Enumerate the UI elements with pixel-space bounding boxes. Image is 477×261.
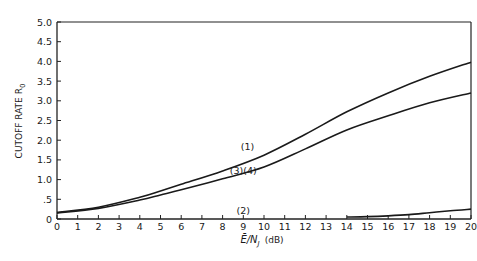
x-tick-label: 10 xyxy=(258,221,270,232)
x-tick-label: 6 xyxy=(178,221,184,232)
x-tick-label: 7 xyxy=(199,221,205,232)
y-tick-label: 1.5 xyxy=(37,154,52,165)
x-tick-label: 3 xyxy=(116,221,122,232)
curve-label: (3)(4) xyxy=(230,165,257,176)
x-tick-label: 12 xyxy=(299,221,311,232)
y-tick-label: 4.5 xyxy=(37,36,52,47)
x-tick-label: 14 xyxy=(341,221,353,232)
curve-label: (1) xyxy=(241,141,254,152)
x-tick-label: 4 xyxy=(137,221,143,232)
curve-1 xyxy=(57,62,471,212)
y-tick-label: 1.0 xyxy=(37,174,52,185)
y-tick-label: 5.0 xyxy=(37,17,52,28)
x-tick-label: 8 xyxy=(220,221,226,232)
plot-frame xyxy=(57,22,471,219)
x-tick-label: 2 xyxy=(95,221,101,232)
curve-labels: (1)(3)(4)(2) xyxy=(230,141,257,216)
y-tick-label: 3.5 xyxy=(37,76,52,87)
y-axis-title: CUTOFF RATE R0 xyxy=(14,84,27,159)
curves xyxy=(57,62,471,217)
x-tick-label: 19 xyxy=(444,221,456,232)
x-tick-label: 16 xyxy=(382,221,394,232)
y-tick-label: 2.5 xyxy=(37,115,52,126)
curve-label: (2) xyxy=(237,205,250,216)
x-tick-label: 1 xyxy=(75,221,81,232)
x-tick-label: 11 xyxy=(279,221,291,232)
x-tick-label: 18 xyxy=(424,221,436,232)
x-axis-ticks: 01234567891011121314151617181920 xyxy=(54,215,477,232)
x-tick-label: 0 xyxy=(54,221,60,232)
cutoff-rate-chart: 0.51.01.52.02.53.03.54.04.55.0 012345678… xyxy=(0,0,477,261)
x-tick-label: 15 xyxy=(361,221,373,232)
x-tick-label: 17 xyxy=(403,221,415,232)
x-tick-label: 13 xyxy=(320,221,332,232)
y-tick-label: .5 xyxy=(43,194,52,205)
x-tick-label: 5 xyxy=(157,221,163,232)
x-axis-title: Ē/NJ(dB) xyxy=(240,233,283,248)
x-tick-label: 20 xyxy=(465,221,477,232)
y-tick-label: 2.0 xyxy=(37,135,52,146)
y-tick-label: 4.0 xyxy=(37,56,52,67)
y-tick-label: 0 xyxy=(46,214,52,225)
y-tick-label: 3.0 xyxy=(37,95,52,106)
x-tick-label: 9 xyxy=(240,221,246,232)
curve-34 xyxy=(57,93,471,213)
